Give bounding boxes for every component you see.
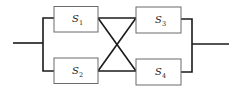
component-s2: S 2	[54, 58, 98, 84]
component-s2-label: S	[72, 65, 79, 76]
component-s4-label: S	[155, 66, 162, 77]
left-bus	[43, 18, 54, 71]
svg-text:3: 3	[162, 20, 166, 28]
component-s3-label: S	[155, 14, 162, 25]
svg-text:2: 2	[79, 71, 83, 79]
component-s3: S 3	[136, 7, 181, 33]
svg-text:1: 1	[79, 19, 83, 27]
reliability-diagram: S 1 S 2 S 3 S 4	[0, 0, 242, 89]
component-s4: S 4	[136, 59, 181, 85]
component-s1: S 1	[54, 7, 98, 33]
right-bus	[181, 19, 192, 72]
svg-text:4: 4	[162, 72, 166, 80]
component-s1-label: S	[72, 13, 79, 24]
